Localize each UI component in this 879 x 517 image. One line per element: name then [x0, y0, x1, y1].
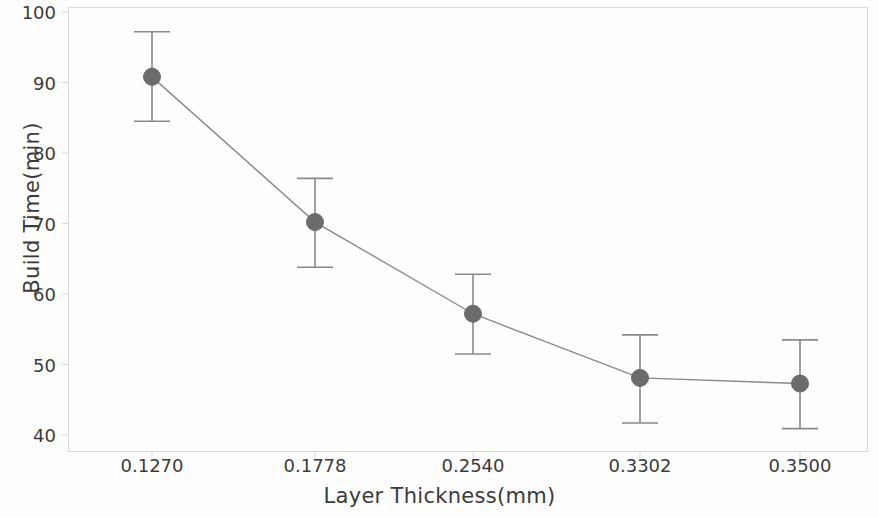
- x-tick-label: 0.3302: [585, 455, 695, 476]
- y-tick-label: 50: [0, 354, 56, 375]
- y-tick-label: 80: [0, 143, 56, 164]
- x-tick-label: 0.2540: [418, 455, 528, 476]
- x-tick-label: 0.3500: [745, 455, 855, 476]
- chart-svg: [0, 0, 879, 517]
- x-tick-label: 0.1778: [260, 455, 370, 476]
- x-axis-title: Layer Thickness(mm): [0, 484, 879, 508]
- y-tick-label: 40: [0, 425, 56, 446]
- y-tick-label: 60: [0, 284, 56, 305]
- y-tick-label: 100: [0, 2, 56, 23]
- data-series-line: [152, 77, 800, 384]
- y-tick-label: 70: [0, 213, 56, 234]
- data-point-marker: [307, 214, 324, 231]
- x-tick-label: 0.1270: [97, 455, 207, 476]
- chart-figure: Build Time(min) Layer Thickness(mm) 1009…: [0, 0, 879, 517]
- data-point-marker: [792, 375, 809, 392]
- data-point-marker: [465, 305, 482, 322]
- y-axis-title: Build Time(min): [20, 58, 44, 358]
- data-point-marker: [632, 369, 649, 386]
- y-tick-label: 90: [0, 72, 56, 93]
- data-point-marker: [144, 68, 161, 85]
